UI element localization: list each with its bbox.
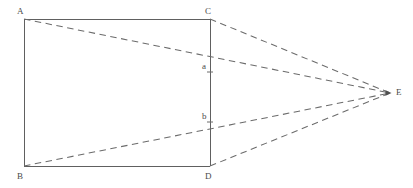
vertex-label-b-bottom-left: B (17, 172, 23, 181)
vertex-label-c-top-right: C (205, 7, 211, 16)
point-label-a-lower: a (202, 62, 206, 71)
arrow-marker-e (386, 90, 392, 96)
vertex-label-d-bottom-right: D (205, 172, 212, 181)
line-a-to-e (24, 19, 390, 93)
line-b-to-e (24, 93, 390, 166)
diagram-canvas: A C B D E a b (0, 0, 413, 188)
point-label-b-lower: b (202, 112, 207, 121)
geometry-figure (0, 0, 413, 188)
vertex-label-e-vanishing-point: E (396, 88, 402, 97)
line-c-to-e (210, 19, 390, 93)
line-d-to-e (210, 93, 390, 166)
dashed-convergence-lines (24, 19, 390, 166)
vertex-label-a-top-left: A (17, 7, 24, 16)
rectangle-abdc (24, 19, 210, 166)
